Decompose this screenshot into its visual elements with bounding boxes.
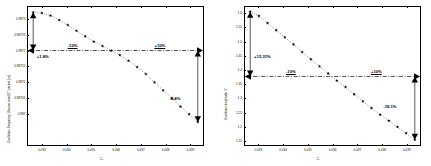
- deviation-arrow-down-right: [411, 134, 417, 140]
- data-point-marker: [40, 11, 43, 14]
- reference-line-label: -10%: [68, 43, 78, 48]
- data-point-marker: [404, 131, 407, 134]
- deviation-arrow-down-right: [195, 116, 201, 122]
- data-point-marker: [136, 65, 139, 68]
- plot-graphics-left: [0, 0, 216, 166]
- data-point-marker: [127, 59, 130, 62]
- reference-line-label: -10%: [286, 69, 296, 74]
- chart-panel-right: Oscillation amplitude, V C₁ 1.151.21.251…: [216, 0, 431, 166]
- deviation-annotation: -3.4%: [169, 96, 180, 101]
- data-point-marker: [387, 119, 390, 122]
- data-point-marker: [317, 65, 320, 68]
- data-point-marker: [49, 14, 52, 17]
- data-point-marker: [395, 125, 398, 128]
- deviation-annotation: +1.8%: [37, 54, 49, 59]
- data-point-marker: [66, 23, 69, 26]
- data-point-marker: [101, 44, 104, 47]
- deviation-annotation: -18.1%: [383, 104, 396, 109]
- figure-container: Oscillation Frequency (Source ratio)/2 *…: [0, 0, 431, 166]
- trend-line: [250, 12, 415, 140]
- reference-line-label: +10%: [154, 43, 165, 48]
- data-point-marker: [309, 57, 312, 60]
- deviation-annotation: +15.31%: [254, 54, 271, 59]
- deviation-arrow-up-left: [30, 12, 36, 18]
- data-point-marker: [291, 43, 294, 46]
- plot-graphics-right: [216, 0, 431, 166]
- reference-line-label: +10%: [371, 69, 382, 74]
- data-point-marker: [92, 40, 95, 43]
- data-point-marker: [283, 36, 286, 39]
- trend-line: [33, 12, 198, 122]
- chart-panel-left: Oscillation Frequency (Source ratio)/2 *…: [0, 0, 216, 166]
- data-point-marker: [75, 29, 78, 32]
